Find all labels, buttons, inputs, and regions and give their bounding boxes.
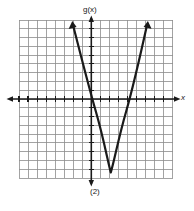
coordinate-plane — [0, 0, 194, 211]
function-label: g(x) — [83, 6, 97, 14]
parabola-curve — [69, 21, 152, 173]
x-axis-label: x — [181, 94, 185, 102]
vertex-label: (2) — [90, 188, 100, 196]
parabola-figure: g(x) x (2) — [0, 0, 194, 211]
